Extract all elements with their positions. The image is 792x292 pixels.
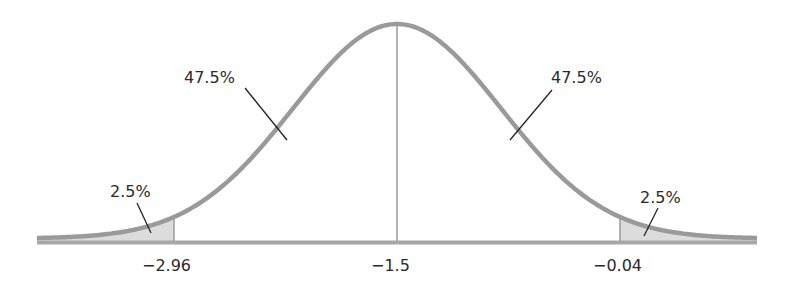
left-center-percent-label: 47.5% (184, 68, 235, 87)
left-tail-percent-label: 2.5% (110, 182, 151, 201)
tick-label-right: −0.04 (593, 256, 642, 275)
normal-distribution-chart: 47.5% 47.5% 2.5% 2.5% −2.96 −1.5 −0.04 (0, 0, 792, 292)
tick-label-center: −1.5 (371, 256, 410, 275)
right-center-percent-label: 47.5% (551, 68, 602, 87)
left-center-leader-line (245, 88, 287, 140)
x-axis-baseline (37, 241, 757, 245)
right-tail-percent-label: 2.5% (640, 188, 681, 207)
tick-label-left: −2.96 (142, 256, 191, 275)
right-center-leader-line (510, 90, 552, 140)
